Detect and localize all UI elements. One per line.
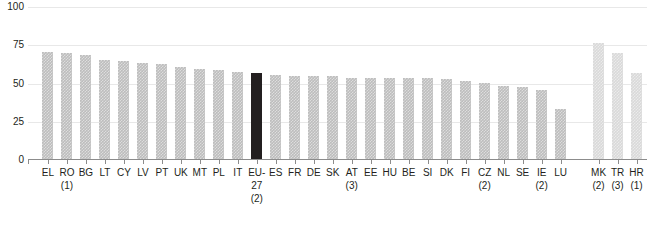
bar-ie xyxy=(536,90,547,159)
x-tick xyxy=(618,160,619,164)
bar-cy xyxy=(118,61,129,159)
x-tick xyxy=(124,160,125,164)
x-axis-label-footnote: (1) xyxy=(620,179,647,192)
bar-hr xyxy=(631,73,642,159)
bar-el xyxy=(42,52,53,159)
bar-ee xyxy=(365,78,376,159)
x-tick xyxy=(314,160,315,164)
x-axis-label-footnote: (1) xyxy=(50,179,84,192)
x-tick xyxy=(447,160,448,164)
x-tick xyxy=(504,160,505,164)
x-axis-ticks xyxy=(28,160,647,165)
bar-cz xyxy=(479,83,490,160)
bar-pl xyxy=(213,70,224,159)
bar-be xyxy=(403,78,414,159)
bar-fi xyxy=(460,81,471,159)
bar-si xyxy=(422,78,433,159)
x-axis-labels: ELRO(1)BGLTCYLVPTUKMTPLITEU-27(2)ESFRDES… xyxy=(28,166,647,227)
x-tick xyxy=(143,160,144,164)
x-tick xyxy=(238,160,239,164)
x-tick xyxy=(181,160,182,164)
x-tick xyxy=(105,160,106,164)
x-tick xyxy=(86,160,87,164)
x-axis-label-footnote: (3) xyxy=(335,179,369,192)
x-axis-label-text: HR xyxy=(620,166,647,179)
y-tick-label: 75 xyxy=(13,40,24,50)
x-tick xyxy=(276,160,277,164)
plot-area xyxy=(28,7,647,160)
x-axis-label-hr: HR(1) xyxy=(620,166,647,192)
x-axis-label-footnote: (2) xyxy=(240,192,274,205)
x-tick xyxy=(637,160,638,164)
x-tick xyxy=(542,160,543,164)
bar-sk xyxy=(327,76,338,159)
bar-pt xyxy=(156,64,167,159)
y-axis: 0255075100 xyxy=(0,0,28,227)
bar-it xyxy=(232,72,243,159)
y-tick-label: 50 xyxy=(13,79,24,89)
bar-lt xyxy=(99,60,110,159)
bar-dk xyxy=(441,79,452,159)
x-axis-label-lu: LU xyxy=(544,166,578,179)
bar-lu xyxy=(555,109,566,159)
bar-uk xyxy=(175,67,186,159)
x-axis-label-footnote: (2) xyxy=(468,179,502,192)
x-tick xyxy=(371,160,372,164)
y-tick-label: 25 xyxy=(13,117,24,127)
x-axis-label-text: LU xyxy=(544,166,578,179)
x-tick xyxy=(523,160,524,164)
x-tick xyxy=(295,160,296,164)
x-tick xyxy=(48,160,49,164)
bar-ro xyxy=(61,53,72,159)
y-tick-label: 0 xyxy=(18,155,24,165)
x-tick xyxy=(466,160,467,164)
x-tick xyxy=(352,160,353,164)
x-tick-origin xyxy=(28,160,29,164)
bar-se xyxy=(517,87,528,159)
bar-lv xyxy=(137,63,148,159)
x-tick xyxy=(390,160,391,164)
bar-tr xyxy=(612,53,623,159)
x-tick xyxy=(219,160,220,164)
x-tick xyxy=(257,160,258,164)
bar-nl xyxy=(498,86,509,159)
bar-fr xyxy=(289,76,300,159)
bar-de xyxy=(308,76,319,159)
bar-at xyxy=(346,78,357,159)
bar-series xyxy=(28,7,647,159)
bar-mk xyxy=(593,43,604,159)
bar-hu xyxy=(384,78,395,159)
x-tick xyxy=(485,160,486,164)
bar-eu-27 xyxy=(251,73,262,159)
x-tick xyxy=(561,160,562,164)
bar-es xyxy=(270,75,281,159)
x-axis-label-text-cont: 27 xyxy=(240,179,274,192)
x-tick xyxy=(200,160,201,164)
x-tick xyxy=(599,160,600,164)
bar-mt xyxy=(194,69,205,159)
x-tick xyxy=(409,160,410,164)
y-tick-label: 100 xyxy=(7,2,24,12)
bar-chart: 0255075100 ELRO(1)BGLTCYLVPTUKMTPLITEU-2… xyxy=(0,0,647,227)
bar-bg xyxy=(80,55,91,159)
x-tick xyxy=(333,160,334,164)
x-tick xyxy=(428,160,429,164)
x-axis-label-footnote: (2) xyxy=(525,179,559,192)
x-tick xyxy=(67,160,68,164)
x-tick xyxy=(162,160,163,164)
